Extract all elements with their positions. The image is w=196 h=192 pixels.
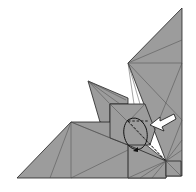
origami-diagram — [0, 0, 196, 192]
